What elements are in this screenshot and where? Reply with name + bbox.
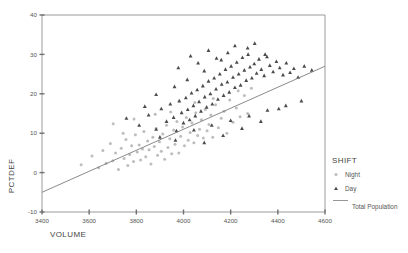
data-point-day: [147, 113, 151, 117]
x-tick-label: 4000: [177, 217, 191, 224]
data-point-day: [159, 107, 163, 111]
data-point-night: [90, 155, 93, 158]
data-point-night: [80, 163, 83, 166]
legend-label-night: Night: [345, 171, 360, 179]
data-point-night: [163, 158, 166, 161]
data-point-day: [199, 109, 203, 113]
data-point-night: [193, 101, 196, 104]
data-point-day: [231, 75, 235, 79]
data-point-night: [207, 123, 210, 126]
data-point-night: [122, 132, 125, 135]
data-point-day: [172, 115, 176, 119]
data-point-day: [278, 66, 282, 70]
data-point-day: [190, 91, 194, 95]
data-point-day: [168, 102, 172, 106]
data-point-day: [233, 85, 237, 89]
data-point-day: [214, 87, 218, 91]
data-point-night: [169, 110, 172, 113]
data-point-day: [225, 80, 229, 84]
data-point-night: [243, 94, 246, 97]
data-point-day: [137, 123, 141, 127]
data-point-night: [177, 151, 180, 154]
data-point-night: [139, 158, 142, 161]
data-point-day: [250, 76, 254, 80]
data-point-day: [268, 63, 272, 67]
data-point-night: [217, 126, 220, 129]
data-point-day: [205, 105, 209, 109]
data-point-day: [240, 126, 244, 130]
data-point-night: [136, 151, 139, 154]
data-point-day: [274, 59, 278, 63]
data-point-night: [214, 103, 217, 106]
y-tick-label: -10: [28, 208, 38, 215]
data-point-day: [202, 69, 206, 73]
data-point-night: [194, 111, 197, 114]
x-tick-label: 3800: [129, 217, 143, 224]
data-point-day: [266, 108, 270, 112]
legend-label-day: Day: [345, 185, 357, 193]
x-tick-label: 3600: [82, 217, 96, 224]
data-point-day: [237, 72, 241, 76]
data-point-day: [154, 92, 158, 96]
data-point-day: [208, 92, 212, 96]
data-point-day: [277, 107, 281, 111]
data-point-day: [244, 78, 248, 82]
data-point-day: [195, 88, 199, 92]
data-point-day: [218, 72, 222, 76]
data-point-night: [192, 141, 195, 144]
data-point-day: [246, 46, 250, 50]
data-point-day: [185, 78, 189, 82]
data-point-night: [126, 164, 129, 167]
data-point-day: [207, 79, 211, 83]
data-point-night: [185, 116, 188, 119]
data-point-night: [142, 130, 145, 133]
data-point-night: [120, 147, 123, 150]
data-point-night: [101, 149, 104, 152]
data-point-night: [212, 97, 215, 100]
x-tick-label: 4200: [224, 217, 238, 224]
y-axis-title: PCTDEF: [7, 159, 16, 193]
data-point-night: [172, 129, 175, 132]
data-point-day: [184, 96, 188, 100]
data-point-day: [215, 56, 219, 60]
data-point-night: [117, 168, 120, 171]
data-point-day: [229, 64, 233, 68]
data-point-day: [252, 62, 256, 66]
data-point-day: [182, 121, 186, 125]
data-point-night: [132, 118, 135, 121]
data-point-night: [132, 160, 135, 163]
data-point-night: [250, 87, 253, 90]
data-point-night: [165, 124, 168, 127]
data-point-day: [284, 104, 288, 108]
data-point-day: [255, 71, 259, 75]
legend-marker-night: [335, 173, 338, 176]
data-point-night: [146, 140, 149, 143]
data-point-day: [201, 84, 205, 88]
data-point-day: [143, 104, 147, 108]
data-point-night: [179, 135, 182, 138]
data-point-day: [262, 74, 266, 78]
y-tick-label: 40: [30, 11, 37, 18]
data-point-day: [210, 123, 214, 127]
data-point-day: [216, 97, 220, 101]
data-point-day: [253, 41, 257, 45]
data-point-day: [224, 67, 228, 71]
data-point-day: [180, 111, 184, 115]
data-point-day: [263, 52, 267, 56]
data-point-day: [210, 102, 214, 106]
data-point-night: [161, 132, 164, 135]
data-point-night: [181, 125, 184, 128]
data-point-day: [203, 95, 207, 99]
data-point-day: [239, 83, 243, 87]
data-point-day: [302, 64, 306, 68]
data-point-night: [211, 136, 214, 139]
x-tick-label: 4600: [318, 217, 332, 224]
data-point-day: [173, 85, 177, 89]
y-tick-label: 10: [30, 129, 37, 136]
data-point-night: [189, 131, 192, 134]
data-point-night: [138, 144, 141, 147]
data-point-night: [235, 106, 238, 109]
data-point-day: [212, 76, 216, 80]
data-point-day: [259, 119, 263, 123]
data-point-day: [226, 51, 230, 55]
